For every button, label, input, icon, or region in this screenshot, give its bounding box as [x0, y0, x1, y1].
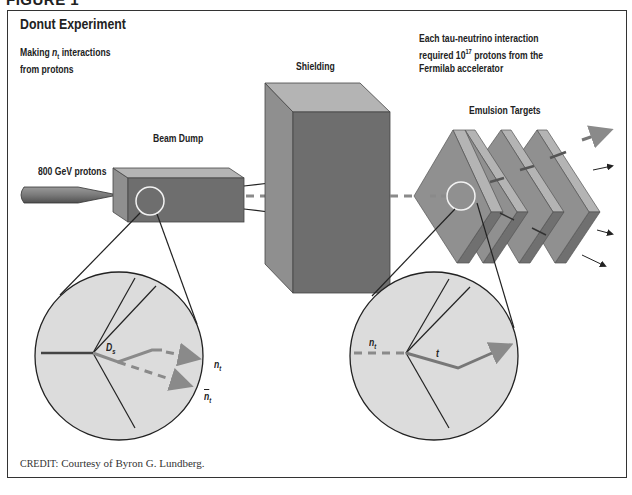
inset-beam-dump	[35, 213, 203, 440]
note-left-prefix: Making	[20, 46, 52, 58]
label-shielding: Shielding	[296, 60, 335, 72]
label-emulsion-targets: Emulsion Targets	[469, 104, 541, 116]
label-tau: t	[436, 347, 439, 359]
credit-text: Courtesy of Byron G. Lundberg.	[58, 457, 204, 469]
note-right-line3: Fermilab accelerator	[419, 62, 503, 74]
label-beam-dump: Beam Dump	[153, 132, 203, 144]
note-right-line2-prefix: required 10	[419, 49, 465, 61]
label-nu-tau-sub: t	[219, 365, 221, 372]
note-left: Making nt interactions from protons	[20, 46, 110, 76]
credit-prefix: CREDIT:	[20, 458, 58, 469]
label-anti-nu-tau: nt	[204, 390, 211, 404]
emulsion-targets	[414, 130, 600, 263]
label-incoming-nu-tau-sub: t	[374, 343, 376, 350]
note-right-line2-suffix: protons from the	[472, 49, 543, 61]
note-right-line1: Each tau-neutrino interaction	[419, 32, 539, 44]
label-anti-nu-tau-sub: t	[209, 397, 211, 404]
shielding-block	[265, 83, 390, 293]
label-nu-tau: nt	[214, 358, 221, 372]
beam-dump-box	[113, 168, 244, 222]
note-left-suffix: interactions	[59, 46, 110, 58]
note-left-line2: from protons	[20, 63, 74, 75]
label-protons: 800 GeV protons	[38, 165, 106, 177]
diagram-title: Donut Experiment	[20, 15, 126, 32]
label-incoming-nu-tau: nt	[369, 336, 376, 350]
label-ds: Ds	[106, 341, 115, 355]
label-ds-sub: s	[112, 348, 115, 355]
credit-line: CREDIT: Courtesy of Byron G. Lundberg.	[20, 457, 205, 469]
note-right: Each tau-neutrino interaction required 1…	[419, 32, 543, 75]
proton-beam	[21, 187, 118, 203]
